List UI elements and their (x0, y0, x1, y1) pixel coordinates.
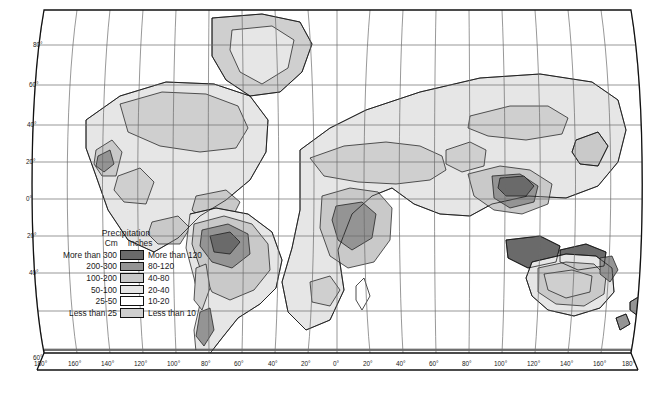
region-antarctica (44, 350, 631, 358)
legend-swatch (120, 308, 144, 318)
legend-cm-label: 200-300 (27, 261, 120, 271)
legend-cm-label: 100-200 (27, 273, 120, 283)
legend-swatch (120, 296, 144, 306)
lon-label: 20° (363, 360, 373, 367)
longitude-labels: 180° 160° 140° 120° 100° 80° 60° 40° 20°… (34, 360, 636, 367)
legend-row: 200-300 80-120 (27, 261, 203, 273)
lon-label: 140° (560, 360, 574, 367)
legend-title: Precipitation (27, 228, 203, 238)
lon-label: 0° (333, 360, 340, 367)
legend-row: 25-50 10-20 (27, 295, 203, 307)
legend-swatch (120, 273, 144, 283)
lon-label: 180° (622, 360, 636, 367)
lat-label: 80° (33, 41, 43, 48)
lat-label: 60° (29, 81, 39, 88)
lon-label: 80° (462, 360, 472, 367)
lon-label: 120° (527, 360, 541, 367)
legend-cm-label: Less than 25 (27, 308, 120, 318)
lon-label: 180° (34, 360, 48, 367)
legend-row: More than 300 More than 120 (27, 249, 203, 261)
legend-row: Less than 25 Less than 10 (27, 307, 203, 319)
legend-headers: Cm Inches (27, 238, 203, 249)
legend-inches-label: More than 120 (144, 250, 202, 260)
world-map: 80° 60° 40° 20° 0° 20° 40° 60° 180° 160°… (0, 0, 670, 395)
legend-inches-label: 80-120 (144, 261, 174, 271)
legend-swatch (120, 262, 144, 272)
legend-swatch (120, 285, 144, 295)
lat-label: 20° (26, 158, 36, 165)
legend-cm-label: 50-100 (27, 285, 120, 295)
lon-label: 20° (301, 360, 311, 367)
lon-label: 160° (593, 360, 607, 367)
legend-header-inches: Inches (122, 238, 203, 249)
legend-header-cm: Cm (27, 238, 122, 249)
lon-label: 60° (429, 360, 439, 367)
lon-label: 40° (268, 360, 278, 367)
legend-row: 50-100 20-40 (27, 284, 203, 296)
lon-label: 80° (201, 360, 211, 367)
lon-label: 120° (134, 360, 148, 367)
lat-label: 40° (27, 121, 37, 128)
legend-swatch (120, 250, 144, 260)
legend-inches-label: Less than 10 (144, 308, 196, 318)
lon-label: 100° (494, 360, 508, 367)
precipitation-map-figure: 80° 60° 40° 20° 0° 20° 40° 60° 180° 160°… (0, 0, 670, 395)
legend-cm-label: More than 300 (27, 250, 120, 260)
legend-cm-label: 25-50 (27, 296, 120, 306)
lon-label: 100° (167, 360, 181, 367)
legend-inches-label: 40-80 (144, 273, 169, 283)
lon-label: 140° (101, 360, 115, 367)
precipitation-legend: Precipitation Cm Inches More than 300 Mo… (27, 228, 203, 319)
lat-label: 0° (26, 195, 33, 202)
legend-inches-label: 20-40 (144, 285, 169, 295)
lon-label: 40° (396, 360, 406, 367)
lon-label: 60° (234, 360, 244, 367)
legend-inches-label: 10-20 (144, 296, 169, 306)
lon-label: 160° (68, 360, 82, 367)
legend-row: 100-200 40-80 (27, 272, 203, 284)
